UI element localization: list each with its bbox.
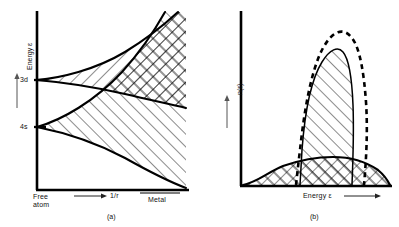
panel-b-x-arrow-icon [344,193,381,198]
panel-b-y-arrow-icon [224,95,229,128]
panel-a [14,8,189,199]
panel-a-y-axis-label: Energy ε [26,43,33,70]
y-tick-label-3d: 3d [20,76,28,84]
panel-b-caption: (b) [310,213,319,220]
panel-b-x-axis-label: Energy ε [303,192,332,200]
metal-label: Metal [148,196,166,204]
y-tick-label-4s: 4s [20,123,28,131]
panel-b [224,11,395,199]
panel-a-x-axis-label: 1/r [110,192,119,200]
free-atom-label-line1: Free [33,193,48,201]
panel-a-y-arrow-icon [14,73,19,108]
figure-svg [0,0,399,227]
figure-root: Energy ε 3d 4s Free atom 1/r Metal (a) n… [0,0,399,227]
panel-b-y-axis-label: n(ε) [236,83,243,95]
panel-a-caption: (a) [107,213,116,220]
panel-a-x-arrow-icon [74,193,107,198]
free-atom-label-line2: atom [33,201,49,209]
